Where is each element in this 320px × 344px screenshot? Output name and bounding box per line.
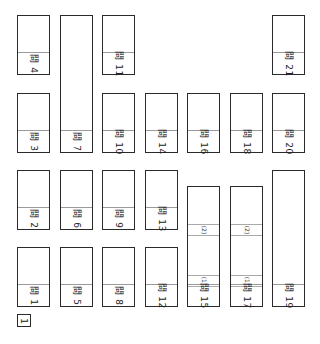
question-number: 問 14	[155, 129, 168, 154]
question-number: 問 6	[70, 209, 83, 228]
answer-box-q10[interactable]: 問 10	[102, 93, 135, 153]
question-label: 問 14	[146, 130, 177, 152]
question-label: 問 8	[103, 284, 134, 306]
question-label: 問 11	[103, 52, 134, 74]
question-label: 問 12	[146, 284, 177, 306]
answer-box-q3[interactable]: 問 3	[17, 93, 50, 153]
answer-box-q12[interactable]: 問 12	[145, 247, 178, 307]
question-label: 問 10	[103, 130, 134, 152]
question-label: 問 5	[61, 284, 92, 306]
section-number: 1	[19, 318, 29, 324]
question-label: 問 2	[18, 207, 49, 229]
answer-box-q16[interactable]: 問 16	[187, 93, 220, 153]
answer-box-q4[interactable]: 問 4	[17, 15, 50, 75]
question-number: 問 15	[197, 283, 210, 308]
question-number: 問 3	[27, 132, 40, 151]
part-number: (2)	[243, 226, 250, 235]
answer-box-q14[interactable]: 問 14	[145, 93, 178, 153]
question-number: 問 12	[155, 283, 168, 308]
question-label: 問 16	[188, 130, 219, 152]
answer-box-q13[interactable]: 問 13	[145, 170, 178, 230]
question-number: 問 7	[70, 132, 83, 151]
question-label: 問 4	[18, 52, 49, 74]
answer-box-q18[interactable]: 問 18	[230, 93, 263, 153]
question-number: 問 21	[282, 51, 295, 76]
question-number: 問 19	[282, 283, 295, 308]
question-number: 問 2	[27, 209, 40, 228]
question-label: 問 18	[231, 130, 262, 152]
question-label: 問 17	[231, 284, 262, 306]
question-label: 問 7	[61, 130, 92, 152]
question-label: 問 21	[273, 52, 304, 74]
question-number: 問 4	[27, 54, 40, 73]
question-label: 問 20	[273, 130, 304, 152]
answer-box-q19[interactable]: 問 19	[272, 170, 305, 307]
answer-box-q11[interactable]: 問 11	[102, 15, 135, 75]
answer-box-q20[interactable]: 問 20	[272, 93, 305, 153]
section-number-box: 1	[17, 314, 31, 327]
answer-box-q15[interactable]: (2) (1) 問 15	[187, 186, 220, 307]
question-label: 問 6	[61, 207, 92, 229]
question-number: 問 9	[112, 209, 125, 228]
part-2-label: (2)	[231, 224, 262, 236]
question-number: 問 20	[282, 129, 295, 154]
question-number: 問 10	[112, 129, 125, 154]
question-number: 問 17	[240, 283, 253, 308]
question-label: 問 13	[146, 207, 177, 229]
answer-box-q6[interactable]: 問 6	[60, 170, 93, 230]
answer-box-q1[interactable]: 問 1	[17, 247, 50, 307]
question-label: 問 15	[188, 284, 219, 306]
part-number: (2)	[200, 226, 207, 235]
question-number: 問 5	[70, 286, 83, 305]
question-label: 問 9	[103, 207, 134, 229]
answer-box-q21[interactable]: 問 21	[272, 15, 305, 75]
answer-box-q7[interactable]: 問 7	[60, 15, 93, 153]
question-number: 問 11	[112, 51, 125, 76]
question-number: 問 1	[27, 286, 40, 305]
question-number: 問 8	[112, 286, 125, 305]
part-2-label: (2)	[188, 224, 219, 236]
question-number: 問 13	[155, 206, 168, 231]
question-number: 問 18	[240, 129, 253, 154]
answer-box-q9[interactable]: 問 9	[102, 170, 135, 230]
answer-box-q5[interactable]: 問 5	[60, 247, 93, 307]
answer-box-q8[interactable]: 問 8	[102, 247, 135, 307]
question-label: 問 3	[18, 130, 49, 152]
question-label: 問 1	[18, 284, 49, 306]
answer-box-q17[interactable]: (2) (1) 問 17	[230, 186, 263, 307]
question-label: 問 19	[273, 284, 304, 306]
answer-box-q2[interactable]: 問 2	[17, 170, 50, 230]
question-number: 問 16	[197, 129, 210, 154]
